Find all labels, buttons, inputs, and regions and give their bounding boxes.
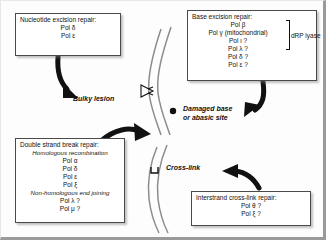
box-double-strand-break-repair[interactable]: Double strand break repair: Homologous r… [15,138,125,223]
dsb-subheading-homologous-recombination: Homologous recombination [20,149,120,157]
icl-title: Interstrand cross-link repair: [196,194,306,202]
ber-item-1: Pol γ (mitochondrial) [192,29,284,37]
dsb-hr-item-1: Pol δ [20,165,120,173]
bracket-crosslink-icon [151,167,158,173]
dsb-nhej-item-0: Pol λ ? [20,197,120,205]
label-cross-link: Cross-link [166,164,200,173]
ber-item-5: Pol ε ? [192,61,284,69]
diagram-canvas: Nucleotide excision repair: Pol δ Pol ε … [0,0,326,240]
ner-item-1: Pol ε [20,32,116,40]
label-damaged-base: Damaged base or abasic site [183,105,232,122]
box-nucleotide-excision-repair[interactable]: Nucleotide excision repair: Pol δ Pol ε [15,13,121,56]
dsb-nhej-item-1: Pol μ ? [20,205,120,213]
arrow-ber-to-damaged-base [244,82,264,117]
dsb-hr-item-3: Pol ξ [20,181,120,189]
ber-item-4: Pol δ ? [192,53,284,61]
ber-title: Base excision repair: [192,13,284,21]
ber-item-2: Pol ι ? [192,37,284,45]
label-bulky-lesion: Bulky lesion [73,95,114,104]
wedge-lesion-icon [141,85,153,97]
dsb-hr-item-2: Pol ε [20,173,120,181]
ber-item-3: Pol λ ? [192,45,284,53]
ner-item-0: Pol δ [20,24,116,32]
drp-lyase-label: dRP lyase [291,32,321,39]
label-damaged-base-line2: or abasic site [183,114,232,123]
icl-item-0: Pol θ ? [196,202,306,210]
dsb-title: Double strand break repair: [20,141,120,149]
ner-title: Nucleotide excision repair: [20,16,116,24]
dna-double-strand-icon [148,27,171,233]
label-damaged-base-line1: Damaged base [183,105,232,114]
box-base-excision-repair[interactable]: Base excision repair: Pol β Pol γ (mitoc… [187,10,317,81]
dsb-subheading-nhej: Non-homologous end joining [20,189,120,197]
dsb-hr-item-0: Pol α [20,157,120,165]
dot-lesion-icon [170,108,176,114]
drp-lyase-annotation: dRP lyase [286,20,321,50]
arrow-icl-to-crosslink [222,164,259,188]
arrow-ner-to-bulky [58,57,78,98]
ber-item-0: Pol β [192,21,284,29]
icl-item-1: Pol ξ ? [196,210,306,218]
drp-lyase-bracket-icon [286,20,290,50]
box-interstrand-crosslink-repair[interactable]: Interstrand cross-link repair: Pol θ ? P… [191,191,311,226]
